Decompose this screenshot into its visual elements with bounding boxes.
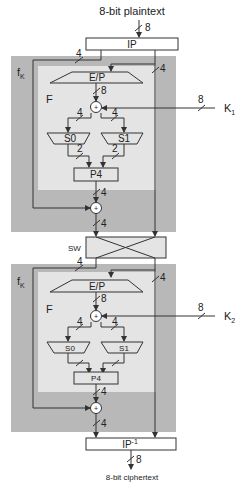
svg-text:4: 4	[101, 418, 107, 429]
svg-text:2: 2	[112, 143, 118, 154]
svg-text:4: 4	[101, 218, 107, 229]
svg-text:2: 2	[77, 143, 83, 154]
sw-label: SW	[68, 244, 81, 253]
ciphertext-label: 8-bit ciphertext	[106, 473, 159, 482]
svg-text:4: 4	[77, 256, 83, 267]
svg-text:4: 4	[101, 386, 107, 397]
svg-text:+: +	[94, 205, 98, 212]
svg-text:+: +	[94, 405, 98, 412]
svg-text:4: 4	[77, 107, 83, 118]
f1-label: F	[46, 93, 53, 105]
svg-text:8: 8	[136, 454, 142, 465]
svg-text:S0: S0	[64, 133, 77, 144]
svg-text:+: +	[94, 313, 98, 320]
svg-text:4: 4	[112, 107, 118, 118]
svg-text:E/P: E/P	[89, 72, 105, 83]
svg-text:4: 4	[112, 316, 118, 327]
svg-text:S1: S1	[118, 133, 131, 144]
svg-text:8: 8	[198, 302, 204, 313]
svg-text:P4: P4	[91, 374, 101, 383]
svg-text:8: 8	[198, 94, 204, 105]
svg-text:4: 4	[160, 272, 166, 283]
svg-text:S1: S1	[119, 344, 129, 353]
svg-text:4: 4	[76, 48, 82, 59]
svg-text:E/P: E/P	[89, 281, 105, 292]
svg-text:+: +	[94, 104, 98, 111]
f2-label: F	[46, 303, 53, 315]
ip-label: IP	[127, 39, 137, 50]
width-label: 8	[145, 22, 151, 33]
plaintext-label: 8-bit plaintext	[99, 5, 164, 17]
k2-label: K2	[224, 310, 235, 324]
svg-text:4: 4	[160, 63, 166, 74]
svg-text:8: 8	[101, 293, 107, 304]
svg-text:4: 4	[77, 316, 83, 327]
svg-text:8: 8	[101, 85, 107, 96]
sdes-diagram: 8-bit plaintext 8 IP fK F 4 4 E/P 8 + 8 …	[0, 0, 244, 493]
k1-label: K1	[224, 102, 235, 116]
svg-text:S0: S0	[65, 344, 75, 353]
svg-text:4: 4	[101, 187, 107, 198]
svg-text:P4: P4	[90, 169, 103, 180]
